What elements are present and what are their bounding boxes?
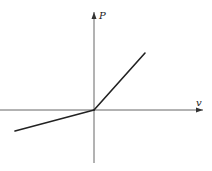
- curve-positive-branch: [94, 53, 145, 110]
- diagram-canvas: P v: [0, 0, 212, 171]
- y-axis-label: P: [98, 10, 106, 21]
- x-axis-label: v: [196, 97, 202, 108]
- curve-negative-branch: [15, 110, 94, 131]
- pv-diagram: P v: [0, 0, 212, 171]
